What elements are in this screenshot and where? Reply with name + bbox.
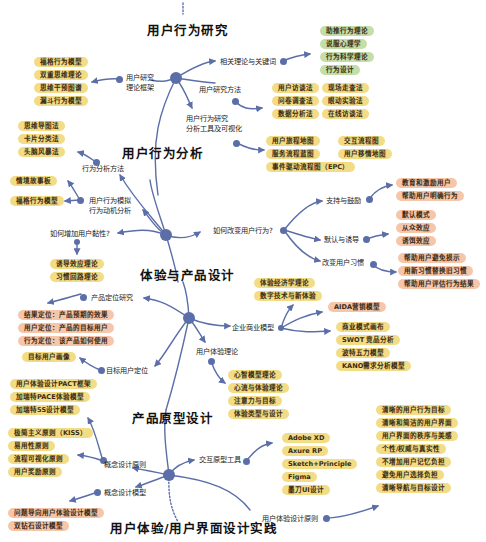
pill-stickiness-2: 习惯回路理论 <box>50 272 104 282</box>
hub-node-research <box>170 72 182 84</box>
node-analysis-methods: 行为分析方法 <box>82 164 124 174</box>
pill-theory-4: 漏斗行为模型 <box>34 96 88 106</box>
node-dot <box>77 197 84 204</box>
node-dot <box>74 239 80 245</box>
node-dot <box>116 76 123 83</box>
node-dot <box>366 196 373 203</box>
pill-positioning-3: 行为定位：该产品如何使用 <box>18 336 114 346</box>
pill-concept-model-2: 双钻石设计模型 <box>8 521 69 531</box>
pill-positioning-2: 用户定位：产品的目标用户 <box>18 323 114 333</box>
pill-related-2: 说服心理学 <box>320 39 367 49</box>
node-dot <box>280 58 287 65</box>
node-support: 支持与鼓励 <box>326 196 361 206</box>
pill-business-top-1: 体验经济学理论 <box>254 278 315 288</box>
pill-target-user-1: 目标用户画像 <box>22 352 76 362</box>
pill-principle-4: 用户奖励原则 <box>8 467 62 477</box>
pill-tool-3: 服务流程蓝图 <box>266 149 320 159</box>
node-research-methods: 用户研究方法 <box>199 85 241 95</box>
pill-business-bottom-3: 波特五力模型 <box>336 348 390 358</box>
pill-model-top-2: 加瑞特PACE体验模型 <box>10 392 90 402</box>
node-dot <box>243 458 250 465</box>
pill-proto-tool-3: Sketch+Principle <box>282 459 357 469</box>
pill-ux-theory-1: 心智模型理论 <box>228 370 282 380</box>
pill-theory-3: 思维干预图谱 <box>34 83 88 93</box>
pill-tool-2: 交互流程图 <box>338 136 385 146</box>
pill-business-bottom-2: SWOT 竞品分析 <box>336 335 400 345</box>
pill-habit-2: 用新习惯替换旧习惯 <box>398 266 473 276</box>
pill-ux-theory-3: 注意力与目标 <box>228 396 282 406</box>
node-theory-framework: 用户研究 理论框架 <box>126 73 154 93</box>
pill-business-bottom-4: KANO需求分析模型 <box>336 361 411 371</box>
node-dot <box>370 261 377 268</box>
pill-habit-1: 帮助用户避免损示 <box>398 253 466 263</box>
pill-ux-principle-3: 用户界面的秩序与美感 <box>376 431 458 441</box>
node-related-theory: 相关理论与关键词 <box>220 57 276 67</box>
pill-method-6: 在线访谈法 <box>322 109 369 119</box>
node-simulation: 用户行为模拟 行为动机分析 <box>89 196 131 216</box>
node-dot <box>323 515 330 522</box>
node-design-principles: 概念设计原则 <box>104 460 146 470</box>
pill-ux-theory-2: 心流与体验理论 <box>228 383 289 393</box>
pill-simulation-1: 情境故事板 <box>10 176 57 186</box>
node-dot <box>363 236 370 243</box>
pill-theory-2: 双重思维理论 <box>34 70 88 80</box>
pill-ux-principle-7: 清晰导航与目标设计 <box>376 483 451 493</box>
pill-analysis-method-1: 思维导图法 <box>18 121 65 131</box>
node-business-model: 企业商业模型 <box>232 323 274 333</box>
pill-related-1: 助推行为理论 <box>320 26 374 36</box>
node-default: 默认与诱导 <box>324 235 359 245</box>
pill-model-top-3: 加瑞特5S设计模型 <box>10 405 80 415</box>
pill-analysis-method-3: 头脑风暴法 <box>18 147 65 157</box>
pill-ux-principle-2: 清晰和简洁的用户界面 <box>376 418 458 428</box>
pill-ux-theory-4: 体验类型与设计 <box>228 409 289 419</box>
pill-ux-principle-5: 不增加用户记忆负担 <box>376 457 451 467</box>
node-prototype-tools: 交互原型工具 <box>199 455 241 465</box>
hub-node-analysis <box>160 229 172 241</box>
node-positioning: 产品定位研究 <box>91 293 133 303</box>
pill-default-1: 默认模式 <box>396 210 436 220</box>
pill-method-2: 现场走查法 <box>322 83 369 93</box>
pill-default-2: 从众效应 <box>396 223 436 233</box>
pill-support-1: 教育和激励用户 <box>396 178 457 188</box>
node-dot <box>94 489 101 496</box>
section-experience-product-design: 体验与产品设计 <box>140 265 235 284</box>
pill-principle-2: 易用性原则 <box>8 441 55 451</box>
pill-positioning-1: 结果定位：产品预期的效果 <box>18 310 114 320</box>
pill-simulation-2: 福格行为模型 <box>10 196 64 206</box>
node-change-behavior-question: 如何改变用户行为? <box>213 226 273 236</box>
pill-tool-5: 事件驱动流程图（EPC） <box>266 162 355 172</box>
node-research-tools: 用户行为研究 分析工具及可视化 <box>186 114 242 134</box>
pill-principle-3: 流程可视化原则 <box>8 454 69 464</box>
pill-tool-1: 用户旅程地图 <box>266 136 320 146</box>
pill-proto-tool-2: Axure RP <box>282 446 328 456</box>
node-ux-theory: 用户体验理论 <box>196 347 238 357</box>
pill-method-4: 眼动实验法 <box>322 96 369 106</box>
pill-proto-tool-1: Adobe XD <box>282 433 330 443</box>
section-ux-ui-practice: 用户体验/用户界面设计实践 <box>110 518 277 537</box>
pill-business-bottom-1: 商业模式画布 <box>336 322 390 332</box>
pill-theory-1: 福格行为模型 <box>34 57 88 67</box>
node-stickiness-question: 如何增加用户黏性? <box>50 229 110 239</box>
section-user-behavior-research: 用户行为研究 <box>147 20 228 39</box>
pill-default-3: 诱饵效应 <box>396 236 436 246</box>
pill-related-3: 行为科学理论 <box>320 52 374 62</box>
pill-related-4: 行为设计 <box>320 65 360 75</box>
node-dot <box>98 367 105 374</box>
node-dot <box>232 98 239 105</box>
section-prototype-design: 产品原型设计 <box>132 408 213 427</box>
pill-business-mid-1: AIDA营销模型 <box>328 302 386 312</box>
node-habit: 改变用户习惯 <box>322 258 364 268</box>
pill-habit-3: 帮助用户评估行为结果 <box>398 279 480 289</box>
pill-business-top-2: 数字技术与新体验 <box>254 291 322 301</box>
node-dot <box>208 358 215 365</box>
pill-principle-1: 极简主义原则（KISS） <box>8 428 93 438</box>
node-design-model: 概念设计模型 <box>104 488 146 498</box>
node-dot <box>278 325 284 331</box>
pill-ux-principle-1: 清晰的用户行为目标 <box>376 405 451 415</box>
pill-model-top-1: 用户体验设计PACT框架 <box>10 379 97 389</box>
mind-map-canvas: 用户行为研究 用户行为分析 体验与产品设计 产品原型设计 用户体验/用户界面设计… <box>0 0 486 542</box>
pill-proto-tool-5: 墨刀UI设计 <box>282 485 330 495</box>
hub-node-design <box>183 312 195 324</box>
pill-method-1: 用户访谈法 <box>272 83 319 93</box>
pill-stickiness-1: 诱导效应理论 <box>50 259 104 269</box>
